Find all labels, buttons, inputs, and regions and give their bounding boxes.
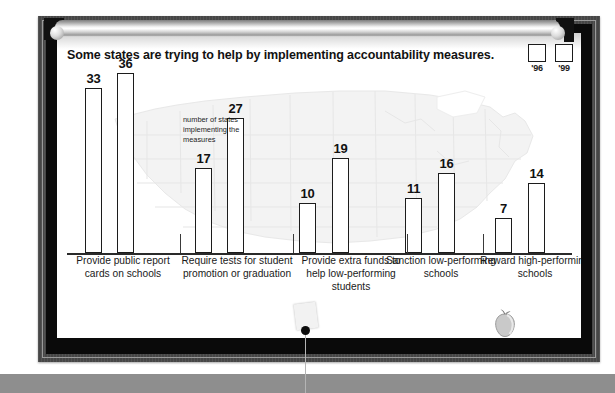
plot-area: 3336172710191116714 number of states imp…	[57, 71, 581, 253]
bar-value-label: 10	[301, 186, 315, 201]
chart-canvas: Some states are trying to help by implem…	[57, 33, 581, 338]
category-label: Provide public report cards on schools	[67, 254, 179, 280]
infographic-screenshot: Some states are trying to help by implem…	[0, 0, 615, 393]
bar-value-label: 16	[440, 156, 454, 171]
chart-bar	[495, 218, 512, 253]
legend-swatch-99	[555, 44, 573, 62]
bar-value-label: 36	[119, 56, 133, 71]
category-separator-tick	[293, 234, 294, 253]
legend-item: '99	[555, 44, 573, 73]
chart-bar	[332, 158, 349, 253]
category-separator-tick	[483, 234, 484, 253]
bar-value-label: 27	[229, 101, 243, 116]
roller-knob-right[interactable]	[551, 26, 565, 40]
legend-item: '96	[528, 44, 546, 73]
callout-leader-line	[305, 330, 306, 393]
series-annotation: number of states implementing the measur…	[183, 115, 245, 145]
canvas-top-sheen	[57, 33, 581, 49]
bar-value-label: 14	[530, 166, 544, 181]
category-separator-tick	[407, 234, 408, 253]
chart-bar	[85, 88, 102, 253]
category-labels: Provide public report cards on schoolsRe…	[67, 254, 572, 314]
callout-dot	[301, 326, 310, 335]
bar-value-label: 17	[197, 151, 211, 166]
chart-bar	[528, 183, 545, 253]
legend-swatch-96	[528, 44, 546, 62]
chart-bar	[438, 173, 455, 253]
bar-value-label: 11	[407, 181, 420, 196]
category-separator-tick	[180, 234, 181, 253]
apple-icon	[488, 308, 522, 341]
chart-bar	[299, 203, 316, 253]
category-label: Reward high-performing schools	[479, 254, 581, 280]
chart-bar	[117, 73, 134, 253]
bar-value-label: 7	[500, 201, 507, 216]
bottom-gray-band	[0, 374, 615, 393]
chart-bar	[195, 168, 212, 253]
roller-knob-left[interactable]	[50, 26, 64, 40]
legend: '96 '99	[528, 44, 573, 73]
bar-value-label: 19	[334, 141, 348, 156]
category-label: Require tests for student promotion or g…	[181, 254, 293, 280]
screen-roller-bar[interactable]	[55, 20, 560, 35]
bar-value-label: 33	[87, 71, 101, 86]
